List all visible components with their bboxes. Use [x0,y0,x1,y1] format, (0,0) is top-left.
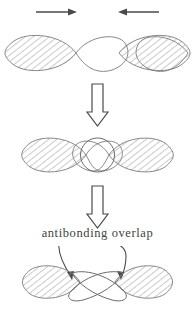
left-approach-arrow [36,9,77,16]
stage-antibonding-svg [0,246,195,311]
right-approach-arrow [118,9,159,16]
stage-approach-svg [0,24,195,82]
orbital-right [73,138,174,172]
approach-arrows-row [0,0,195,26]
antibonding-overlap-label: antibonding overlap [0,226,195,241]
transition-arrow-1 [0,82,195,128]
stage-contact [0,126,195,184]
lobe-hatched [109,138,173,172]
orbital-left [5,35,128,71]
lobe-hatched [5,35,76,70]
orbital-left [23,266,81,298]
lobe-hatched [22,138,86,172]
approach-arrows-svg [0,0,195,26]
orbital-right [119,35,190,71]
stage-contact-svg [0,126,195,184]
stage-approach [0,24,195,82]
callout-label-row: antibonding overlap [0,226,195,248]
transition-arrow-1-wrap [0,82,195,128]
orbital-left [22,138,123,172]
lobe-hatched [119,35,190,70]
lobe-hatched [23,266,81,298]
transition-arrow-2 [0,184,195,230]
transition-arrow-2-wrap [0,184,195,230]
stage-antibonding [0,246,195,311]
